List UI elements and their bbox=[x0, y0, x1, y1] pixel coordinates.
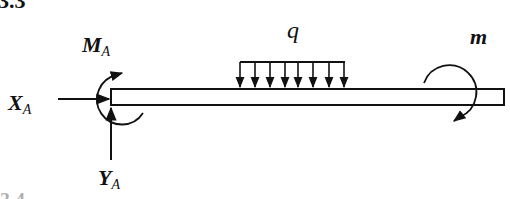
figure-number-top: 3.3 bbox=[0, 0, 26, 13]
moment-m-arrowhead bbox=[454, 115, 462, 121]
beam bbox=[111, 89, 504, 105]
distributed-load bbox=[240, 62, 345, 87]
figure-number-bottom: 3.4 bbox=[0, 189, 25, 199]
label-q: q bbox=[287, 17, 299, 43]
beam-diagram: 3.3 3.4 XA YA MA q m bbox=[0, 0, 510, 199]
moment-a-arrowhead bbox=[115, 73, 122, 75]
label-y-a: YA bbox=[98, 165, 120, 192]
label-x-a: XA bbox=[7, 90, 32, 117]
label-m: m bbox=[470, 24, 487, 49]
label-m-a: MA bbox=[81, 32, 111, 59]
moment-m-arc bbox=[424, 65, 476, 117]
